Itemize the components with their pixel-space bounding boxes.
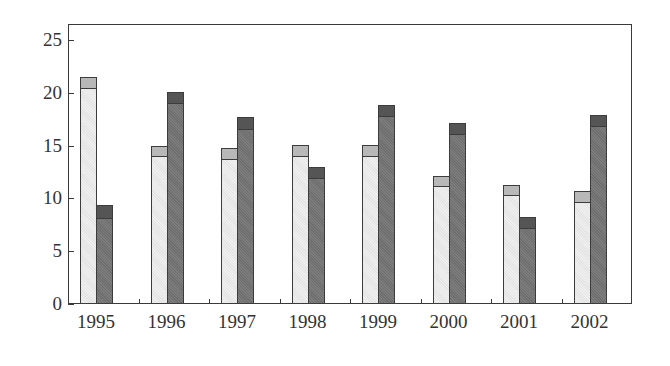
bar-cap — [309, 168, 324, 180]
y-tick-label: 0 — [22, 294, 62, 313]
x-tick-label: 1995 — [61, 312, 131, 332]
bar-2000-series-0 — [433, 176, 450, 304]
x-tick — [562, 299, 563, 304]
bar-cap — [293, 146, 308, 158]
bar-1997-series-0 — [221, 148, 238, 304]
bar-cap — [168, 93, 183, 105]
x-tick — [350, 299, 351, 304]
bar-cap — [363, 146, 378, 158]
y-tick — [68, 93, 74, 94]
x-tick-label: 1996 — [132, 312, 202, 332]
y-tick-label: 15 — [22, 136, 62, 155]
x-tick-label: 2000 — [414, 312, 484, 332]
bar-cap — [97, 206, 112, 220]
bar-2001-series-0 — [503, 185, 520, 304]
bar-cap — [152, 147, 167, 158]
bar-cap — [520, 218, 535, 229]
x-tick — [209, 299, 210, 304]
x-tick — [280, 299, 281, 304]
bar-1998-series-0 — [292, 145, 309, 304]
y-tick-label: 20 — [22, 83, 62, 102]
bar-1999-series-1 — [378, 105, 395, 304]
bar-cap — [591, 116, 606, 127]
y-tick — [68, 146, 74, 147]
bar-1996-series-1 — [167, 92, 184, 304]
y-tick-label: 25 — [22, 30, 62, 49]
bar-2001-series-1 — [519, 217, 536, 304]
y-tick-label: 5 — [22, 241, 62, 260]
bar-1995-series-0 — [80, 77, 97, 304]
bar-1997-series-1 — [237, 117, 254, 304]
bar-1996-series-0 — [151, 146, 168, 304]
bar-2002-series-0 — [574, 191, 591, 304]
y-tick-label: 10 — [22, 188, 62, 207]
bar-1995-series-1 — [96, 205, 113, 304]
bar-cap — [81, 78, 96, 89]
x-tick-label: 2001 — [484, 312, 554, 332]
x-tick-label: 1998 — [273, 312, 343, 332]
bar-cap — [434, 177, 449, 187]
x-tick-label: 2002 — [555, 312, 625, 332]
bar-1999-series-0 — [362, 145, 379, 304]
x-tick — [421, 299, 422, 304]
bar-cap — [450, 124, 465, 135]
bar-cap — [575, 192, 590, 203]
y-tick — [68, 251, 74, 252]
bar-2002-series-1 — [590, 115, 607, 304]
x-tick-label: 1999 — [343, 312, 413, 332]
y-tick — [68, 304, 74, 305]
bar-cap — [379, 106, 394, 117]
x-tick — [139, 299, 140, 304]
bar-cap — [222, 149, 237, 161]
x-tick-label: 1997 — [202, 312, 272, 332]
bar-2000-series-1 — [449, 123, 466, 304]
y-tick — [68, 40, 74, 41]
bar-cap — [238, 118, 253, 130]
y-tick — [68, 198, 74, 199]
bar-1998-series-1 — [308, 167, 325, 304]
bar-chart: 0510152025 19951996199719981999200020012… — [0, 0, 670, 366]
bar-cap — [504, 186, 519, 197]
x-tick — [491, 299, 492, 304]
